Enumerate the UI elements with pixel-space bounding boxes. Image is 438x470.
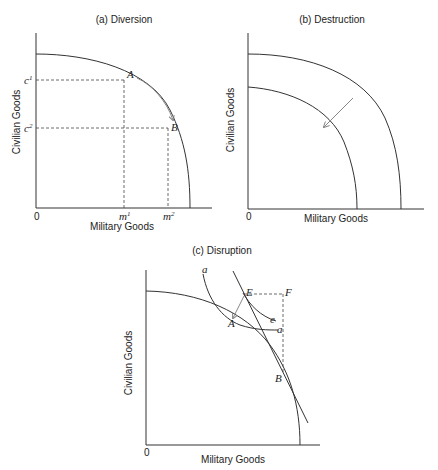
panel-a-title: (a) Diversion — [96, 14, 153, 25]
panel-c-title: (c) Disruption — [192, 245, 251, 256]
panel-b-title: (b) Destruction — [299, 14, 365, 25]
panel-b-inner-ppf — [248, 87, 357, 209]
panel-c-origin: 0 — [144, 447, 150, 458]
panel-c-shift-arrow — [233, 296, 244, 318]
panel-b-outer-ppf — [248, 54, 401, 209]
panel-c-point-b: B — [275, 372, 282, 384]
panel-b-destruction: (b) Destruction 0 Military Goods Civilia… — [225, 14, 424, 224]
panel-a-m2-label: m2 — [163, 210, 175, 222]
panel-c-x-label: Military Goods — [201, 454, 265, 465]
panel-c-curve-label-a-bottom: a — [277, 323, 283, 335]
panel-c-curve-label-e: e — [270, 313, 275, 325]
panel-c-y-label: Civilian Goods — [123, 331, 134, 395]
panel-a-diversion: (a) Diversion A B c1 c2 m1 m2 0 Military… — [11, 14, 212, 232]
panel-c-curve-label-a-top: a — [202, 263, 208, 275]
panel-b-y-label: Civilian Goods — [225, 88, 236, 152]
panel-b-shift-arrow — [324, 98, 353, 127]
panel-a-x-label: Military Goods — [90, 221, 154, 232]
panel-b-x-label: Military Goods — [304, 213, 368, 224]
panel-c-point-f: F — [284, 286, 292, 298]
panel-a-c2-label: c2 — [24, 122, 33, 134]
panel-a-point-b: B — [171, 121, 178, 133]
figure: (a) Diversion A B c1 c2 m1 m2 0 Military… — [0, 0, 438, 470]
panel-a-shift-arrow — [137, 78, 173, 120]
panel-a-ppf-curve — [36, 54, 190, 208]
panel-c-point-e: E — [245, 286, 253, 298]
panel-a-c1-label: c1 — [24, 74, 32, 86]
panel-c-point-a: A — [227, 317, 235, 329]
panel-c-disruption: (c) Disruption a a e A B E F 0 Military … — [123, 245, 320, 465]
panel-a-y-label: Civilian Goods — [11, 90, 22, 154]
panel-a-origin: 0 — [34, 211, 40, 222]
panel-a-point-a: A — [126, 68, 134, 80]
panel-b-origin: 0 — [246, 211, 252, 222]
